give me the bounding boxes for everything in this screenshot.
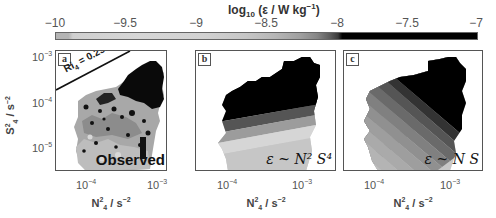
y-tick: 10−3 <box>32 50 52 63</box>
colorbar <box>55 32 478 40</box>
panel-b-model-n2s4: b ε ~ N² S⁴ <box>195 50 336 171</box>
x-axis-label-c: N24 / s−2 <box>393 196 432 211</box>
panel-label-b: b <box>198 53 211 66</box>
panel-c-model-ns: c ε ~ N S <box>343 50 483 171</box>
colorbar-tick: −9.5 <box>113 16 137 30</box>
x-tick: 10−4 <box>364 178 384 191</box>
panel-a-observed: a Ri4 = 0.25 Observed <box>55 50 167 171</box>
x-axis-label-a: N24 / s−2 <box>91 196 130 211</box>
colorbar-tick: −9 <box>189 16 203 30</box>
y-axis-label: S24 / s−2 <box>4 96 19 134</box>
x-axis-label-b: N24 / s−2 <box>246 196 285 211</box>
panel-a-annotation: Observed <box>96 151 165 168</box>
x-tick: 10−3 <box>292 178 312 191</box>
x-tick: 10−4 <box>217 178 237 191</box>
panel-b-annotation: ε ~ N² S⁴ <box>266 151 332 167</box>
panel-c-annotation: ε ~ N S <box>425 151 479 167</box>
y-tick: 10−5 <box>32 141 52 154</box>
colorbar-tick: −8.5 <box>254 16 278 30</box>
y-tick: 10−4 <box>32 96 52 109</box>
x-tick: 10−4 <box>76 178 96 191</box>
colorbar-tick: −7 <box>469 16 483 30</box>
colorbar-tick: −10 <box>45 16 65 30</box>
colorbar-tick: −7.5 <box>395 16 419 30</box>
x-tick: 10−3 <box>147 178 167 191</box>
panel-label-c: c <box>346 53 359 66</box>
x-tick: 10−3 <box>440 178 460 191</box>
colorbar-tick: −8 <box>330 16 344 30</box>
